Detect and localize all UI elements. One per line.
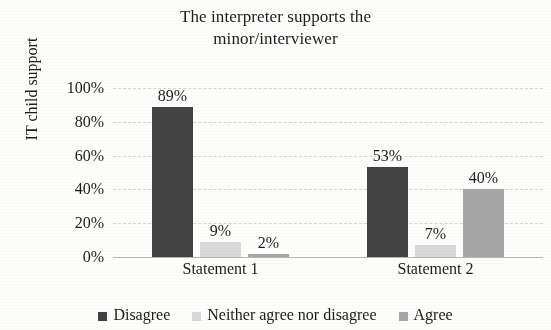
bar-value-label: 89% xyxy=(158,87,187,105)
legend-item[interactable]: Disagree xyxy=(98,306,170,324)
legend-label: Neither agree nor disagree xyxy=(207,306,376,324)
bar-value-label: 7% xyxy=(425,225,446,243)
bar: 2% xyxy=(248,254,289,257)
legend-item[interactable]: Agree xyxy=(399,306,453,324)
chart-legend: DisagreeNeither agree nor disagreeAgree xyxy=(0,306,551,324)
legend-swatch-icon xyxy=(399,312,408,321)
legend-swatch-icon xyxy=(98,312,107,321)
y-axis-title: IT child support xyxy=(23,0,41,189)
bar-chart: The interpreter supports the minor/inter… xyxy=(0,0,551,330)
x-axis-tick-label: Statement 2 xyxy=(328,260,543,278)
bar: 7% xyxy=(415,245,456,257)
x-axis-tick-label: Statement 1 xyxy=(113,260,328,278)
y-axis-tick-label: 100% xyxy=(67,79,104,97)
legend-label: Disagree xyxy=(113,306,170,324)
legend-label: Agree xyxy=(414,306,453,324)
bar: 40% xyxy=(463,189,504,257)
y-axis-tick-label: 20% xyxy=(75,214,104,232)
y-axis-tick-label: 40% xyxy=(75,180,104,198)
axis-baseline xyxy=(113,257,543,258)
chart-title-line-1: The interpreter supports the xyxy=(0,6,551,28)
bar: 9% xyxy=(200,242,241,257)
bar-value-label: 2% xyxy=(258,234,279,252)
y-axis-tick-label: 80% xyxy=(75,112,104,130)
bar-value-label: 40% xyxy=(469,169,498,187)
legend-swatch-icon xyxy=(192,312,201,321)
legend-item[interactable]: Neither agree nor disagree xyxy=(192,306,376,324)
chart-title-line-2: minor/interviewer xyxy=(0,28,551,50)
y-axis-tick-label: 60% xyxy=(75,146,104,164)
plot-area: 0%20%40%60%80%100% 89%9%2%53%7%40% State… xyxy=(113,88,543,257)
bar-value-label: 9% xyxy=(210,222,231,240)
bar: 89% xyxy=(152,107,193,257)
bar: 53% xyxy=(367,167,408,257)
chart-title: The interpreter supports the minor/inter… xyxy=(0,6,551,51)
y-axis-tick-label: 0% xyxy=(83,248,104,266)
bar-value-label: 53% xyxy=(373,147,402,165)
